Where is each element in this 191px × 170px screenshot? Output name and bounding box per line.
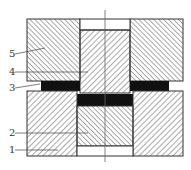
workpiece-left [41,81,80,91]
label-1: 1 [9,144,15,155]
leader-3 [15,84,40,88]
label-4: 4 [9,66,15,77]
lower-die-right [133,91,183,156]
label-5: 5 [9,48,15,59]
upper-die-right [130,19,183,81]
die-cross-section-diagram: 5 4 3 2 1 [0,0,191,170]
label-3: 3 [9,82,15,93]
label-2: 2 [9,127,15,138]
workpiece-right [130,81,169,91]
lower-die-left [27,91,77,156]
